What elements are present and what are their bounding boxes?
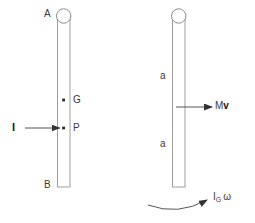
label-a-top: A bbox=[44, 9, 51, 19]
diagram-canvas: A B G P I a a Mv IGω bbox=[0, 0, 255, 223]
left-rod-group bbox=[25, 9, 71, 187]
angular-momentum-curved-arrow bbox=[148, 200, 207, 209]
label-momentum-mv: Mv bbox=[215, 101, 229, 111]
right-rod-body bbox=[173, 16, 186, 187]
label-b-bottom: B bbox=[44, 180, 51, 190]
point-g-marker bbox=[62, 99, 65, 102]
label-momentum-v: v bbox=[223, 100, 229, 111]
label-angular-momentum: IGω bbox=[213, 192, 231, 203]
label-distance-a-lower: a bbox=[160, 139, 166, 149]
label-impulse-i: I bbox=[12, 122, 15, 133]
label-g-point: G bbox=[73, 95, 81, 105]
label-distance-a-upper: a bbox=[160, 71, 166, 81]
label-angular-momentum-subscript-g: G bbox=[216, 196, 221, 203]
left-rod-body bbox=[58, 16, 71, 187]
label-angular-momentum-omega: ω bbox=[223, 191, 231, 202]
point-p-marker bbox=[62, 127, 65, 130]
diagram-vector-layer bbox=[0, 0, 255, 223]
label-p-point: P bbox=[73, 123, 80, 133]
right-rod-group bbox=[148, 9, 212, 210]
